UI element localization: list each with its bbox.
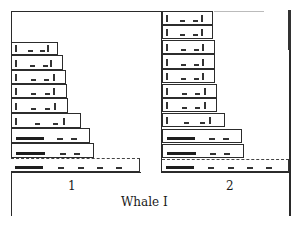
block-markings [14,61,59,67]
block-markings [165,134,238,140]
right-column-base-line [162,172,290,173]
column-2-label: 2 [226,180,234,192]
column-1-label: 1 [68,180,76,192]
block-markings [165,118,221,124]
left-column-base-line [11,172,141,173]
stacked-block [11,70,66,84]
stacked-block [162,25,213,39]
block-markings [14,134,86,140]
block-markings [14,89,63,95]
block-markings [165,89,213,95]
top-frame-line [11,11,162,12]
stacked-block [11,55,63,70]
block-markings [165,103,213,109]
block-markings [14,104,64,110]
stacked-block [162,113,225,127]
stacked-block [162,159,289,172]
stacked-block [162,11,213,25]
block-markings [13,163,136,169]
block-markings [14,119,77,125]
stacked-block [162,129,242,143]
stacked-block [162,144,244,158]
figure-title: Whale I [121,196,168,208]
stacked-block [162,54,215,69]
stacked-block [11,84,67,98]
block-markings [165,30,209,36]
block-markings [165,45,211,51]
block-markings [14,149,90,155]
stacked-block [162,98,217,112]
right-vertical-line-heavy [288,10,291,50]
stacked-block [162,40,215,54]
stacked-block [162,69,215,83]
block-markings [165,60,211,66]
stacked-block [11,128,90,143]
stacked-block [11,113,81,128]
block-markings [165,149,240,155]
block-markings [14,75,62,81]
top-frame-line-faint [214,11,264,12]
stacked-block [11,42,58,55]
block-markings [14,46,54,52]
stacked-block [11,158,140,172]
block-markings [165,16,209,22]
block-markings [165,74,211,80]
stacked-block [11,98,68,113]
stacked-block [11,143,94,158]
stacked-block [162,84,217,98]
block-markings [164,163,285,169]
